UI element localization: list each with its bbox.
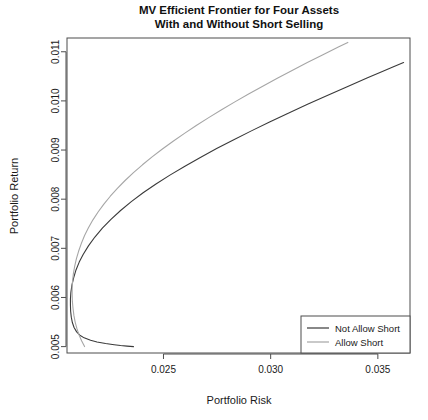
legend-label-0: Not Allow Short: [335, 323, 400, 334]
chart-title-line-1: MV Efficient Frontier for Four Assets: [139, 4, 339, 16]
chart-title-line-2: With and Without Short Selling: [155, 18, 323, 30]
y-tick-label: 0.005: [50, 334, 61, 359]
mv-efficient-frontier-chart: MV Efficient Frontier for Four Assets Wi…: [0, 0, 428, 420]
chart-figure: MV Efficient Frontier for Four Assets Wi…: [0, 0, 428, 420]
y-tick-label: 0.010: [50, 88, 61, 113]
y-tick-label: 0.006: [50, 285, 61, 310]
y-tick-label: 0.008: [50, 186, 61, 211]
y-tick-label: 0.007: [50, 235, 61, 260]
y-tick-label: 0.009: [50, 137, 61, 162]
x-axis-title: Portfolio Risk: [207, 394, 272, 406]
legend-label-1: Allow Short: [335, 337, 383, 348]
x-tick-label: 0.030: [258, 364, 283, 375]
chart-legend: Not Allow ShortAllow Short: [301, 316, 410, 353]
figure-background: [0, 0, 428, 420]
y-axis-title: Portfolio Return: [8, 158, 20, 234]
x-tick-label: 0.035: [365, 364, 390, 375]
x-tick-label: 0.025: [151, 364, 176, 375]
y-tick-label: 0.011: [50, 39, 61, 64]
